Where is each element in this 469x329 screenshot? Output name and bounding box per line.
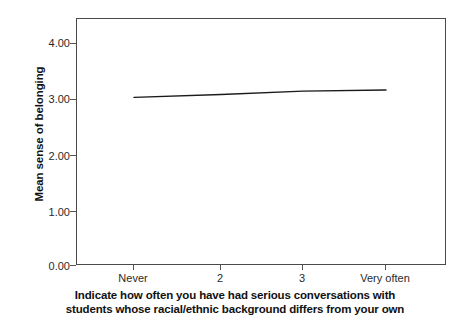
x-tick-label-never: Never [118, 272, 147, 284]
y-tick-label-4: 4.00 [28, 38, 70, 49]
line-chart: Mean sense of belonging 4.00 3.00 2.00 1… [0, 0, 469, 329]
y-tick-label-1: 1.00 [28, 207, 70, 218]
y-tick-label-3: 3.00 [28, 94, 70, 105]
data-line-svg [77, 19, 447, 266]
x-tick-label-very-often: Very often [360, 272, 410, 284]
series-line-mean-sense-of-belonging [134, 90, 386, 97]
plot-area [76, 18, 446, 265]
x-tick-label-2: 2 [217, 272, 223, 284]
x-tick-mark-3 [385, 265, 386, 270]
x-tick-mark-1 [220, 265, 221, 270]
x-axis-title-line2: students whose racial/ethnic background … [30, 302, 440, 316]
x-tick-mark-2 [302, 265, 303, 270]
x-axis-title-line1: Indicate how often you have had serious … [30, 288, 440, 302]
x-tick-label-3: 3 [299, 272, 305, 284]
x-tick-mark-0 [133, 265, 134, 270]
y-tick-label-0: 0.00 [28, 261, 70, 272]
y-tick-label-2: 2.00 [28, 151, 70, 162]
y-tick-mark-0 [70, 265, 76, 266]
y-axis-tick-labels: 4.00 3.00 2.00 1.00 0.00 [24, 0, 70, 329]
x-axis-title: Indicate how often you have had serious … [30, 288, 440, 316]
